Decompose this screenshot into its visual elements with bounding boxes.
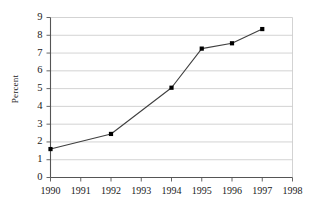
data-point-marker bbox=[169, 86, 173, 90]
data-point-marker bbox=[48, 147, 52, 151]
plot-area bbox=[0, 0, 320, 210]
data-point-marker bbox=[230, 41, 234, 45]
data-point-markers bbox=[48, 27, 264, 151]
gridlines bbox=[51, 18, 293, 178]
axis-lines bbox=[51, 18, 293, 178]
line-chart: Percent 0123456789 199019911992199319941… bbox=[0, 0, 320, 210]
data-point-marker bbox=[260, 27, 264, 31]
data-point-marker bbox=[200, 47, 204, 51]
x-axis-tick-marks bbox=[51, 178, 293, 182]
data-point-marker bbox=[109, 132, 113, 136]
y-axis-tick-marks bbox=[47, 18, 51, 178]
data-series-line bbox=[51, 29, 263, 149]
